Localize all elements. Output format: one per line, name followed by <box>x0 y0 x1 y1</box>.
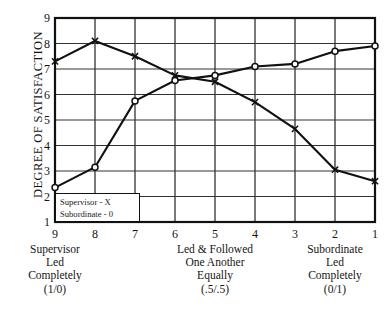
group-caption-line: Supervisor <box>0 243 115 256</box>
group-caption-line: (1/0) <box>0 283 115 296</box>
x-tick-label: 1 <box>367 228 383 240</box>
x-tick-label: 6 <box>167 228 183 240</box>
x-tick-label: 9 <box>47 228 63 240</box>
group-caption-line: Equally <box>155 269 275 282</box>
x-tick-label: 2 <box>327 228 343 240</box>
group-caption: Led & FollowedOne AnotherEqually(.5/.5) <box>155 243 275 296</box>
x-tick-label: 4 <box>247 228 263 240</box>
satisfaction-line-chart: DEGREE OF SATISFACTION 987654321 9876543… <box>0 0 387 313</box>
group-caption-line: Led & Followed <box>155 243 275 256</box>
group-caption-line: Completely <box>0 269 115 282</box>
x-tick-label: 3 <box>287 228 303 240</box>
legend-entry-subordinate: Subordinate - 0 <box>60 208 139 220</box>
group-caption-line: Led <box>275 256 387 269</box>
group-caption-line: Led <box>0 256 115 269</box>
group-caption-line: (.5/.5) <box>155 283 275 296</box>
x-tick-label: 5 <box>207 228 223 240</box>
group-caption-line: One Another <box>155 256 275 269</box>
group-caption-line: (0/1) <box>275 283 387 296</box>
group-caption: SupervisorLedCompletely(1/0) <box>0 243 115 296</box>
x-tick-label: 8 <box>87 228 103 240</box>
x-tick-label: 7 <box>127 228 143 240</box>
legend-entry-supervisor: Supervisor - X <box>60 196 139 208</box>
legend: Supervisor - X Subordinate - 0 <box>55 193 140 222</box>
group-caption-line: Subordinate <box>275 243 387 256</box>
group-caption-line: Completely <box>275 269 387 282</box>
group-caption: SubordinateLedCompletely(0/1) <box>275 243 387 296</box>
